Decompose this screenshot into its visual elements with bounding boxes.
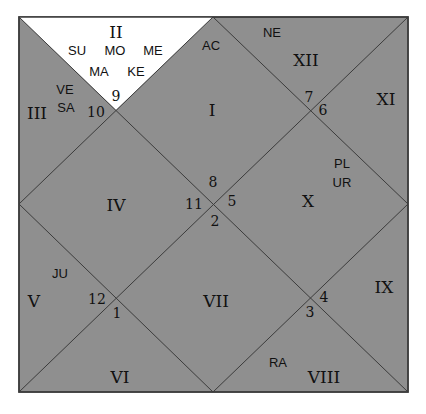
sign-number-11: 11 [185,197,203,211]
sign-number-4: 4 [320,290,329,304]
planet-ve: VE [56,83,73,96]
house-label-vii: VII [203,293,229,310]
planet-mo: MO [105,44,126,57]
sign-number-6: 6 [319,103,328,117]
sign-number-2: 2 [211,214,220,228]
sign-number-5: 5 [228,194,237,208]
house-label-ii: II [109,24,122,41]
house-label-vi: VI [111,369,130,386]
house-label-xi: XI [377,91,396,108]
planet-ma: MA [89,65,109,78]
planet-ur: UR [333,176,352,189]
sign-number-10: 10 [87,105,105,119]
planet-ac: AC [202,39,220,52]
sign-number-9: 9 [112,89,121,103]
planet-pl: PL [334,157,350,170]
planet-me: ME [143,44,163,57]
house-label-viii: VIII [308,369,340,386]
house-label-ix: IX [375,279,394,296]
sign-number-1: 1 [113,306,122,320]
house-label-iii: III [27,105,47,122]
sign-number-3: 3 [306,305,315,319]
planet-ra: RA [269,356,287,369]
house-label-i: I [209,102,216,119]
planet-su: SU [68,44,86,57]
house-label-xii: XII [293,52,319,69]
planet-ke: KE [127,65,144,78]
house-label-v: V [28,293,40,310]
planet-ju: JU [52,267,68,280]
sign-number-8: 8 [209,175,218,189]
sign-number-12: 12 [88,292,106,306]
planet-sa: SA [57,101,74,114]
house-label-iv: IV [107,197,126,214]
north-indian-chart [0,0,426,414]
house-label-x: X [302,193,314,210]
sign-number-7: 7 [305,90,314,104]
planet-ne: NE [263,26,281,39]
